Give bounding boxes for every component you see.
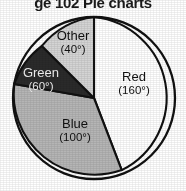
pie-chart-svg — [0, 0, 186, 191]
pie-chart: Red (160°) Blue (100°) Green (60°) Other… — [0, 0, 186, 191]
pie-chart-figure: ge 102 Pie charts Red (160°) Blue (100°)… — [0, 0, 186, 191]
